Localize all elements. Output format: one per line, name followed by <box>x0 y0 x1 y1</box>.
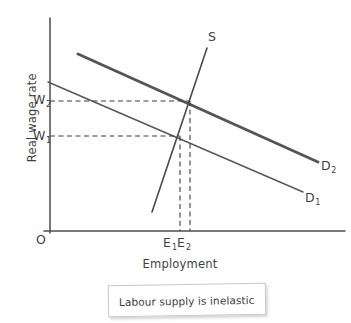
demand-curve-2-label: D2 <box>321 160 336 173</box>
demand-curve-1-label: D1 <box>305 192 320 205</box>
e1-tick-subscript: 1 <box>172 243 178 252</box>
y-axis-title: Real wage rate <box>27 63 39 173</box>
w2-tick-label: W2 <box>33 94 50 107</box>
w2-tick-letter: W <box>33 92 45 107</box>
e2-tick-letter: E <box>177 235 185 250</box>
w1-tick-label: W1 <box>33 130 50 143</box>
x-axis-title: Employment <box>130 259 230 271</box>
demand-curve-2 <box>78 54 318 162</box>
e1-tick-letter: E <box>163 235 171 250</box>
demand-curve-1-subscript: 1 <box>315 198 320 207</box>
plot-canvas <box>0 0 351 323</box>
e-tick-labels: E1E2 <box>163 237 191 250</box>
caption-text: Labour supply is inelastic <box>119 294 255 308</box>
w1-tick-letter: W <box>33 128 45 143</box>
w1-tick-subscript: 1 <box>46 136 51 145</box>
caption-box: Labour supply is inelastic <box>108 283 266 317</box>
e2-tick-subscript: 2 <box>186 243 192 252</box>
w2-tick-subscript: 2 <box>46 100 51 109</box>
demand-curve-1-letter: D <box>305 190 315 205</box>
demand-curve-2-subscript: 2 <box>331 166 336 175</box>
supply-curve-label: S <box>208 31 216 44</box>
origin-label: O <box>36 234 46 247</box>
demand-curve-2-letter: D <box>321 158 331 173</box>
supply-curve-letter: S <box>208 29 216 44</box>
supply-demand-figure: Real wage rate Employment O W2 W1 E1E2 S… <box>0 0 351 323</box>
